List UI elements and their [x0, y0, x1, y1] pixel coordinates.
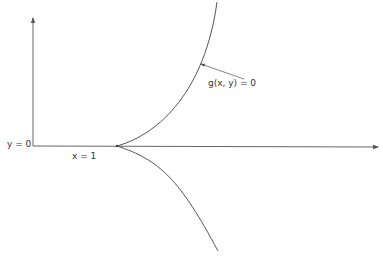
y-zero-label: y = 0: [7, 139, 31, 149]
lower-curve: [117, 146, 218, 251]
diagram-canvas: y = 0 x = 1 g(x, y) = 0: [0, 0, 383, 268]
cusp-point: [116, 145, 118, 147]
diagram-svg: [0, 0, 383, 268]
upper-curve: [117, 2, 217, 146]
x-one-label: x = 1: [72, 151, 96, 161]
pointer-arrow: [201, 64, 244, 79]
horizontal-axis: [33, 146, 378, 147]
curve-label: g(x, y) = 0: [208, 78, 256, 88]
